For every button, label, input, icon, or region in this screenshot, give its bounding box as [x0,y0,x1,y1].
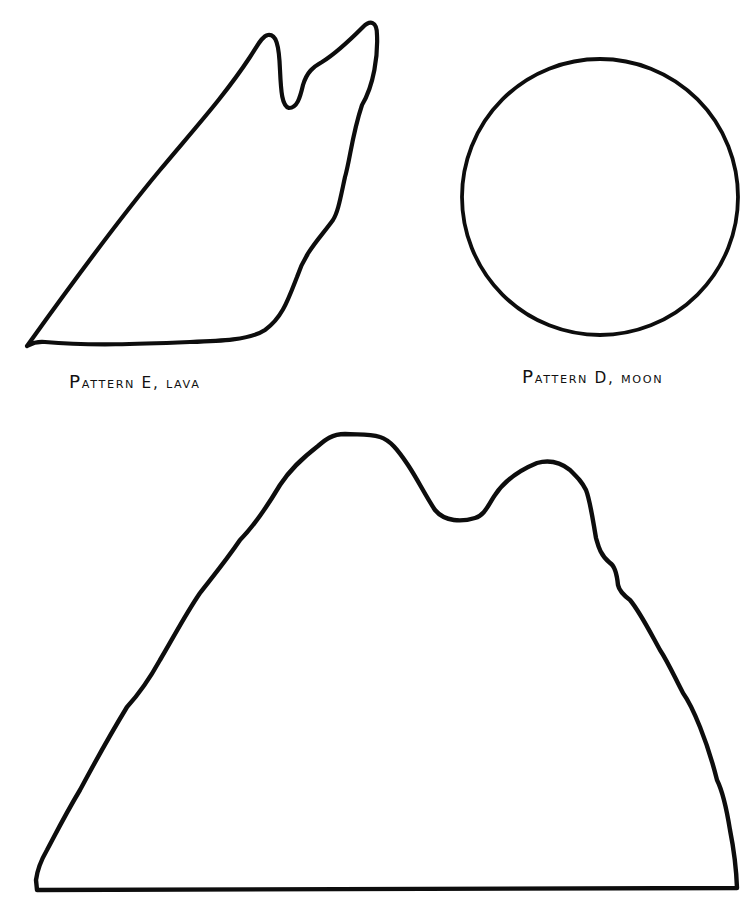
pattern-e-label-initial: P [69,371,82,392]
pattern-d-label-text: attern D, moon [535,369,664,387]
pattern-e-label: Pattern E, lava [69,371,201,392]
pattern-sheet [0,0,755,912]
pattern-d-label: Pattern D, moon [522,366,663,387]
pattern-d-label-initial: P [522,366,535,387]
mountain-pattern-outline [36,434,737,890]
moon-pattern-circle [462,59,738,335]
lava-pattern-outline [27,23,377,346]
pattern-e-label-text: attern E, lava [82,374,201,392]
